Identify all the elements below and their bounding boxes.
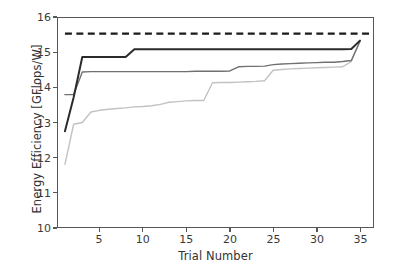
y-tick-label: 16 (37, 12, 51, 23)
x-tick-mark (273, 228, 274, 232)
x-tick-label: 20 (223, 234, 237, 245)
x-axis-label: Trial Number (57, 249, 374, 263)
data-series-group (65, 34, 370, 165)
plot-area (57, 17, 374, 228)
x-tick-label: 30 (310, 234, 324, 245)
x-tick-label: 5 (96, 234, 103, 245)
series-canvas (58, 18, 373, 227)
light-gray-line (65, 41, 360, 164)
x-tick-label: 35 (354, 234, 368, 245)
x-tick-label: 25 (267, 234, 281, 245)
y-tick-label: 11 (37, 187, 51, 198)
x-tick-mark (229, 228, 230, 232)
x-tick-label: 15 (179, 234, 193, 245)
x-tick-mark (316, 228, 317, 232)
y-tick-label: 13 (37, 117, 51, 128)
x-axis-tick-marks (0, 228, 393, 233)
y-tick-label: 15 (37, 47, 51, 58)
x-axis-tick-labels: 5 10 15 20 25 30 35 (0, 234, 393, 248)
x-tick-mark (360, 228, 361, 232)
x-tick-label: 10 (136, 234, 150, 245)
dark-line (65, 41, 360, 132)
x-tick-mark (99, 228, 100, 232)
chart-figure: Energy Efficiency [GFlops/W] 16 15 14 13… (0, 0, 393, 270)
x-tick-mark (142, 228, 143, 232)
y-tick-label: 14 (37, 82, 51, 93)
y-tick-label: 12 (37, 152, 51, 163)
x-tick-mark (186, 228, 187, 232)
